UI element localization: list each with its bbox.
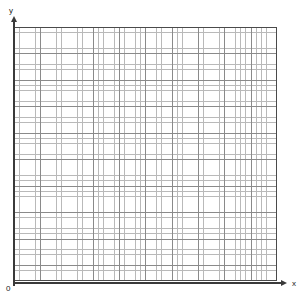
plot-border (14, 27, 277, 281)
arrow-up-icon (11, 16, 17, 22)
graph-paper-figure: y x 0 (0, 0, 306, 301)
grid-lines-major (14, 27, 277, 281)
x-axis-label: x (292, 279, 296, 288)
arrow-right-icon (281, 280, 287, 286)
y-axis-label: y (9, 6, 13, 15)
grid-lines-minor (14, 27, 277, 281)
plot-grid-area (14, 27, 277, 281)
y-axis-line (13, 22, 15, 286)
x-axis-line (13, 282, 283, 284)
origin-label: 0 (6, 284, 10, 293)
